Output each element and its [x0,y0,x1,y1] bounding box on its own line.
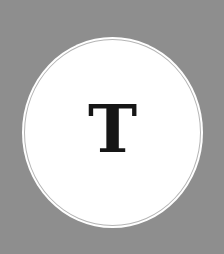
avatar-initial: T [22,96,203,162]
avatar: T [22,37,203,228]
